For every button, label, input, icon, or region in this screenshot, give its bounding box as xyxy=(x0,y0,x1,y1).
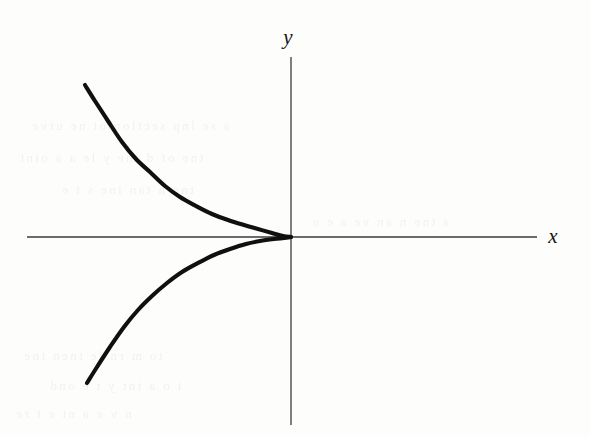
y-axis-label: y xyxy=(281,25,293,49)
x-axis-label: x xyxy=(547,224,558,248)
curve-upper-branch xyxy=(85,85,291,237)
figure-canvas: a se lnp sectlon ot ne urve tne of d tne… xyxy=(0,0,590,436)
coordinate-plane-graph: y x xyxy=(0,0,590,436)
curve-lower-branch xyxy=(87,237,291,383)
